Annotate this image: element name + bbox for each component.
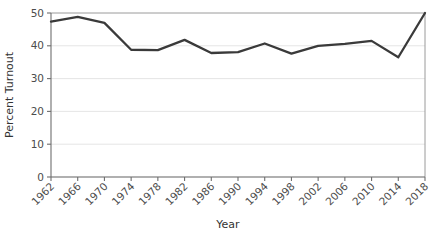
x-tick-label-1970: 1970 [82,180,109,207]
y-tick-label-30: 30 [31,72,44,84]
x-tick-label-2014: 2014 [376,180,404,208]
y-tick-label-10: 10 [31,138,44,150]
y-tick-label-0: 0 [37,171,44,183]
x-axis-title: Year [215,218,240,231]
y-axis-title: Percent Turnout [3,51,16,138]
x-tick-label-1990: 1990 [216,180,243,207]
y-tick-label-20: 20 [31,105,44,117]
x-tick-label-1974: 1974 [109,180,137,208]
plot-area-background [51,13,425,177]
x-tick-label-1994: 1994 [243,180,271,208]
y-tick-label-50: 50 [31,7,44,19]
x-tick-label-1986: 1986 [189,180,217,208]
x-axis-ticks: 1962196619701974197819821986199019941998… [29,177,430,207]
x-tick-label-1978: 1978 [136,180,163,207]
x-tick-label-2010: 2010 [350,180,377,207]
x-tick-label-2002: 2002 [296,180,323,207]
chart-figure: 01020304050 1962196619701974197819821986… [0,0,443,238]
x-tick-label-1962: 1962 [29,180,56,207]
line-chart: 01020304050 1962196619701974197819821986… [0,0,443,238]
y-tick-label-40: 40 [31,39,44,51]
x-tick-label-2018: 2018 [403,180,430,207]
x-tick-label-1966: 1966 [56,180,84,208]
x-tick-label-2006: 2006 [323,180,351,208]
y-axis-ticks: 01020304050 [31,7,51,183]
x-tick-label-1982: 1982 [163,180,190,207]
x-tick-label-1998: 1998 [269,180,296,207]
